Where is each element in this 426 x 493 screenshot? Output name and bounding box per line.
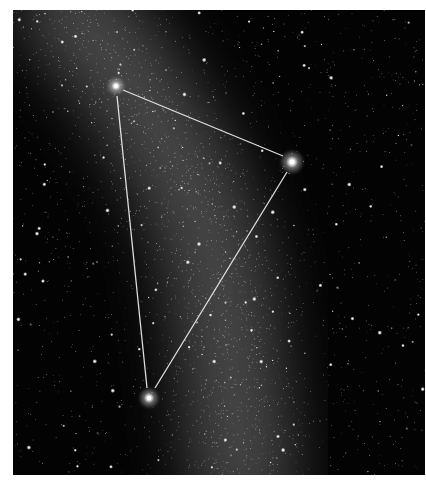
bottom-vertex-star	[138, 387, 160, 409]
right-vertex-star	[279, 149, 304, 174]
starfield-canvas	[13, 10, 425, 475]
night-sky-photo	[13, 10, 425, 475]
milky-way-band	[73, 10, 243, 475]
top-left-vertex-star	[106, 76, 125, 95]
